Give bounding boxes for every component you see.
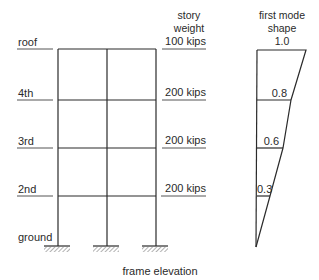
floor-label-3rd: 3rd	[18, 135, 34, 147]
story-weight-header: story weight	[173, 9, 204, 34]
mode-shape-value-2nd: 0.3	[257, 183, 272, 195]
mode-shape-value-roof: 1.0	[275, 35, 290, 47]
mode-shape-header-line2: shape	[268, 22, 297, 34]
floor-label-4th: 4th	[18, 87, 33, 99]
fixed-support-icon	[93, 247, 119, 252]
floor-label-roof: roof	[18, 36, 38, 48]
mode-shape	[256, 50, 306, 247]
mode-shape-axis	[256, 50, 257, 247]
mode-shape-values: 0.8 0.6 0.3	[257, 87, 287, 195]
floor-labels: roof 4th 3rd 2nd ground	[17, 36, 53, 243]
mode-shape-value-4th: 0.8	[272, 87, 287, 99]
fixed-support-icon	[142, 247, 168, 252]
story-weight-roof: 100 kips	[165, 35, 206, 47]
fixed-supports	[44, 246, 168, 252]
diagram-caption: frame elevation	[122, 265, 197, 277]
floor-label-2nd: 2nd	[18, 183, 36, 195]
story-weights: 100 kips 200 kips 200 kips 200 kips	[161, 35, 206, 196]
floor-label-ground: ground	[18, 231, 52, 243]
story-weight-3rd: 200 kips	[165, 134, 206, 146]
mode-shape-value-3rd: 0.6	[264, 135, 279, 147]
mode-shape-header-line1: first mode	[259, 9, 305, 21]
frame-elevation-diagram: story weight first mode shape 1.0 roof 4…	[0, 0, 319, 280]
story-weight-header-line1: story	[178, 9, 202, 21]
story-weight-header-line2: weight	[173, 22, 204, 34]
fixed-support-icon	[44, 247, 70, 252]
mode-shape-header: first mode shape 1.0	[259, 9, 305, 47]
frame	[58, 49, 156, 246]
story-weight-2nd: 200 kips	[165, 182, 206, 194]
story-weight-4th: 200 kips	[165, 86, 206, 98]
